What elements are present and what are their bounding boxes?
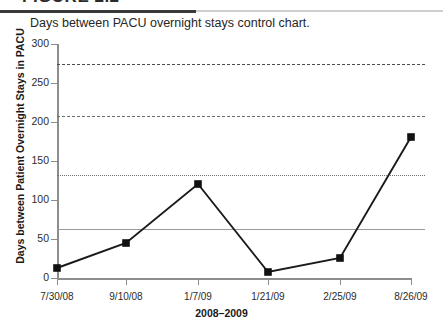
data-point-marker: [336, 254, 344, 262]
x-tick-label-1: 9/10/08: [94, 292, 158, 302]
data-series-line: [0, 0, 443, 327]
x-tick-label-0: 7/30/08: [25, 292, 89, 302]
x-tick-label-2: 1/7/09: [166, 292, 230, 302]
data-point-marker: [194, 180, 202, 188]
x-tick-label-3: 1/21/09: [236, 292, 300, 302]
x-tick-2: [198, 278, 199, 285]
x-tick-label-4: 2/25/09: [308, 292, 372, 302]
series-polyline: [57, 137, 411, 272]
data-point-marker: [264, 268, 272, 276]
x-tick-3: [268, 278, 269, 285]
x-tick-1: [126, 278, 127, 285]
x-tick-label-5: 8/26/09: [379, 292, 443, 302]
data-point-marker: [407, 133, 415, 141]
x-tick-5: [411, 278, 412, 285]
x-axis-title: 2008–2009: [0, 307, 443, 319]
y-axis-title: Days between Patient Overnight Stays in …: [14, 21, 26, 271]
x-tick-4: [340, 278, 341, 285]
figure-container: FIGURE 2.2 Days between PACU overnight s…: [0, 0, 443, 327]
data-point-marker: [122, 239, 130, 247]
data-point-marker: [53, 264, 61, 272]
x-tick-0: [57, 278, 58, 285]
